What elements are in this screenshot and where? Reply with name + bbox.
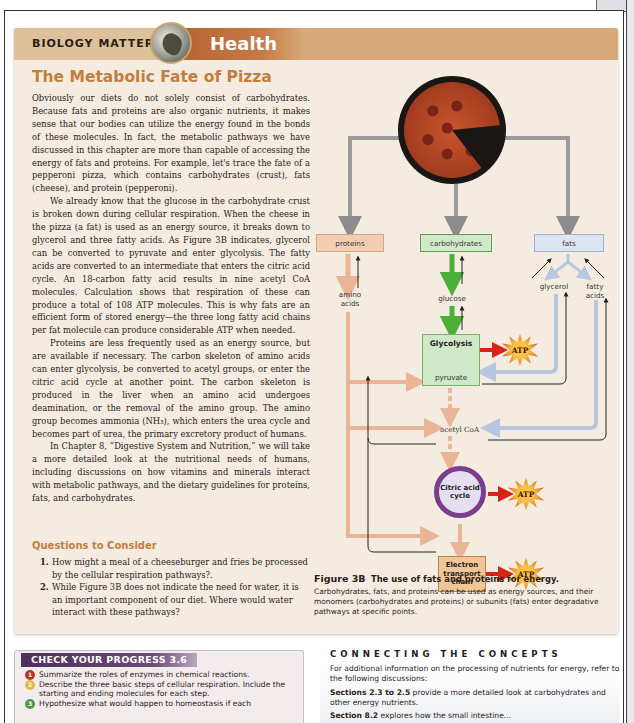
progress-header: CHECK YOUR PROGRESS 3.6 [21,653,197,667]
metabolism-diagram: proteins carbohydrates fats amino acids … [310,66,610,566]
figure-title: The use of fats and proteins for energy. [371,574,559,584]
question-text: How might a meal of a cheeseburger and f… [52,557,308,580]
paragraph: Proteins are less frequently used as an … [32,337,310,440]
figure-caption-text: Carbohydrates, fats, and proteins can be… [314,587,604,618]
number-badge-icon: 1 [25,670,35,680]
glycolysis-box: Glycolysis pyruvate [422,334,480,386]
health-badge-icon [150,22,192,64]
question-item: 2.While Figure 3B does not indicate the … [40,581,310,619]
feature-header: BIOLOGY MATTERS Health [14,28,618,60]
number-badge-icon: 2 [25,680,35,690]
question-number: 2. [40,581,49,594]
atp-label: ATP [512,346,529,355]
pizza-toppings [404,82,500,178]
paragraph: We already know that the glucose in the … [32,195,310,337]
figure-label: Figure 3B [314,573,366,584]
concepts-title: CONNECTING THE CONCEPTS [330,649,562,659]
questions-list: 1.How might a meal of a cheeseburger and… [40,556,310,619]
connecting-the-concepts-box: CONNECTING THE CONCEPTS For additional i… [320,646,620,723]
glycolysis-label: Glycolysis [430,339,473,348]
carbohydrates-box: carbohydrates [420,234,492,252]
article-body: Obviously our diets do not solely consis… [32,92,310,505]
amino-acids-label: amino acids [332,290,368,308]
check-your-progress-box: CHECK YOUR PROGRESS 3.6 1Summarize the r… [14,650,304,723]
progress-text: Summarize the roles of enzymes in chemic… [39,670,249,679]
concepts-text: For additional information on the proces… [330,664,620,721]
atp-burst-icon: ATP [508,478,544,510]
questions-heading: Questions to Consider [32,540,157,551]
series-label: BIOLOGY MATTERS [32,37,163,50]
fats-box: fats [534,234,604,252]
paragraph: Obviously our diets do not solely consis… [32,92,310,195]
question-text: While Figure 3B does not indicate the ne… [52,582,299,617]
progress-text: Hypothesize what would happen to homeost… [39,699,251,708]
progress-list: 1Summarize the roles of enzymes in chemi… [25,670,303,709]
pizza-image [398,76,506,184]
pyruvate-label: pyruvate [435,373,467,382]
category-title: Health [210,33,277,54]
reference-link: Sections 2.3 to 2.5 [330,688,410,697]
question-number: 1. [40,556,49,569]
reference-text: explores how the small intestine... [378,711,511,720]
concepts-intro: For additional information on the proces… [330,664,620,685]
fatty-acids-label: fatty acids [580,282,610,300]
caption-heading: Figure 3B The use of fats and proteins f… [314,573,604,585]
acetyl-coa-label: acetyl CoA [440,425,479,434]
progress-title: CHECK YOUR PROGRESS 3.6 [31,654,187,665]
progress-item: 2Describe the three basic steps of cellu… [25,680,303,699]
progress-item: 3Hypothesize what would happen to homeos… [25,699,303,709]
progress-item: 1Summarize the roles of enzymes in chemi… [25,670,303,680]
atp-burst-icon: ATP [502,334,538,366]
glycerol-label: glycerol [536,282,572,291]
number-badge-icon: 3 [25,699,35,709]
progress-text: Describe the three basic steps of cellul… [39,680,285,699]
biology-matters-feature: BIOLOGY MATTERS Health The Metabolic Fat… [14,28,618,634]
proteins-box: proteins [316,234,384,252]
citric-acid-cycle: Citric acid cycle [434,466,486,518]
figure-caption: Figure 3B The use of fats and proteins f… [314,573,604,618]
atp-label: ATP [518,490,535,499]
badge-figure [159,31,186,58]
concepts-reference: Sections 2.3 to 2.5 provide a more detai… [330,688,620,709]
concepts-reference: Section 8.2 explores how the small intes… [330,711,620,721]
page-edge-scrollbar [626,0,634,723]
glucose-label: glucose [434,294,470,303]
question-item: 1.How might a meal of a cheeseburger and… [40,556,310,581]
article-title: The Metabolic Fate of Pizza [32,68,272,86]
reference-link: Section 8.2 [330,711,378,720]
paragraph: In Chapter 8, “Digestive System and Nutr… [32,440,310,505]
